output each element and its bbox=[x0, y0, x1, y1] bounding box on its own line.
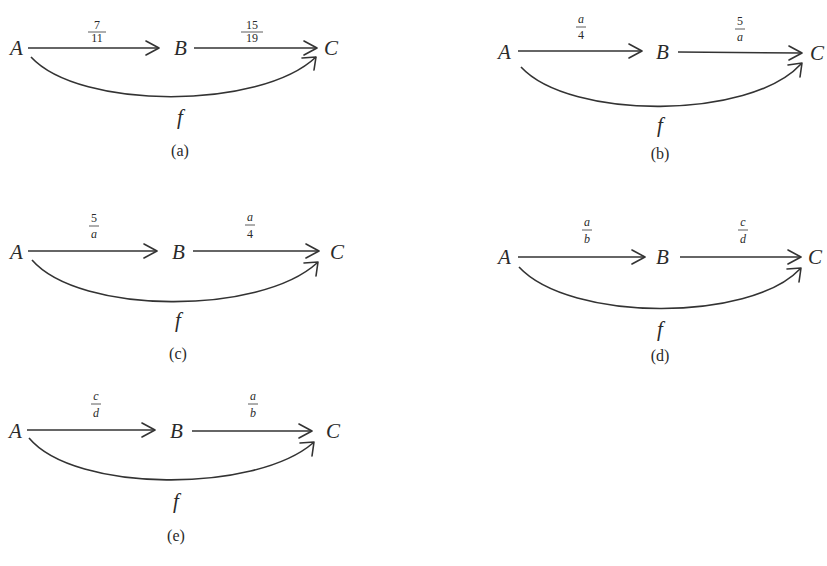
label-c-AB-numerator: 5 bbox=[91, 211, 97, 225]
arrow-a-f-A-to-C bbox=[31, 57, 316, 97]
label-e-AB-denominator: d bbox=[93, 406, 100, 420]
commutative-diagrams-figure: A 7 11 B 15 19 C f (a) A a 4 B 5 a C f bbox=[0, 0, 827, 566]
node-c-B: B bbox=[172, 240, 185, 264]
diagram-b: A a 4 B 5 a C f (b) bbox=[496, 12, 825, 163]
label-a-AB-numerator: 7 bbox=[94, 18, 100, 32]
node-e-B: B bbox=[170, 419, 183, 443]
diagram-a: A 7 11 B 15 19 C f (a) bbox=[8, 18, 339, 160]
caption-b: (b) bbox=[651, 145, 670, 163]
label-e-BC-numerator: a bbox=[250, 389, 256, 403]
label-a-BC-denominator: 19 bbox=[246, 31, 258, 45]
label-d-AB-denominator: b bbox=[584, 232, 590, 246]
node-d-C: C bbox=[808, 245, 823, 269]
label-a-f: f bbox=[177, 105, 186, 129]
label-e-f: f bbox=[173, 489, 182, 513]
caption-a: (a) bbox=[171, 142, 189, 160]
arrow-b-B-to-C bbox=[678, 52, 801, 53]
label-b-AB-denominator: 4 bbox=[578, 28, 584, 42]
node-c-A: A bbox=[8, 240, 23, 264]
label-d-f: f bbox=[657, 317, 666, 341]
label-c-BC-numerator: a bbox=[247, 210, 253, 224]
label-b-f: f bbox=[657, 113, 666, 137]
node-a-A: A bbox=[8, 36, 23, 60]
label-b-BC-denominator: a bbox=[737, 30, 743, 44]
label-c-AB-denominator: a bbox=[91, 227, 97, 241]
node-b-B: B bbox=[656, 40, 669, 64]
label-b-AB-numerator: a bbox=[578, 12, 584, 26]
node-e-C: C bbox=[326, 419, 341, 443]
label-e-BC-denominator: b bbox=[250, 406, 256, 420]
diagram-d: A a b B c d C f (d) bbox=[496, 215, 823, 365]
label-b-BC-numerator: 5 bbox=[737, 14, 743, 28]
label-a-BC-numerator: 15 bbox=[246, 18, 258, 32]
node-a-B: B bbox=[174, 36, 187, 60]
label-d-BC-numerator: c bbox=[740, 215, 746, 229]
arrow-c-f-A-to-C bbox=[32, 260, 317, 302]
arrow-e-f-A-to-C bbox=[29, 438, 313, 480]
node-e-A: A bbox=[7, 419, 22, 443]
arrow-b-f-A-to-C bbox=[521, 64, 801, 106]
node-b-C: C bbox=[810, 41, 825, 65]
label-d-BC-denominator: d bbox=[740, 232, 747, 246]
caption-d: (d) bbox=[651, 347, 670, 365]
label-c-BC-denominator: 4 bbox=[247, 227, 253, 241]
diagram-c: A 5 a B a 4 C f (c) bbox=[8, 210, 345, 363]
node-c-C: C bbox=[330, 240, 345, 264]
node-d-A: A bbox=[496, 245, 511, 269]
label-a-AB-denominator: 11 bbox=[91, 31, 103, 45]
node-b-A: A bbox=[496, 40, 511, 64]
diagram-e: A c d B a b C f (e) bbox=[7, 389, 341, 545]
label-d-AB-numerator: a bbox=[584, 215, 590, 229]
label-c-f: f bbox=[175, 308, 184, 332]
arrow-d-f-A-to-C bbox=[519, 267, 800, 309]
caption-c: (c) bbox=[169, 345, 187, 363]
label-e-AB-numerator: c bbox=[93, 389, 99, 403]
caption-e: (e) bbox=[167, 527, 185, 545]
node-a-C: C bbox=[324, 36, 339, 60]
node-d-B: B bbox=[656, 245, 669, 269]
